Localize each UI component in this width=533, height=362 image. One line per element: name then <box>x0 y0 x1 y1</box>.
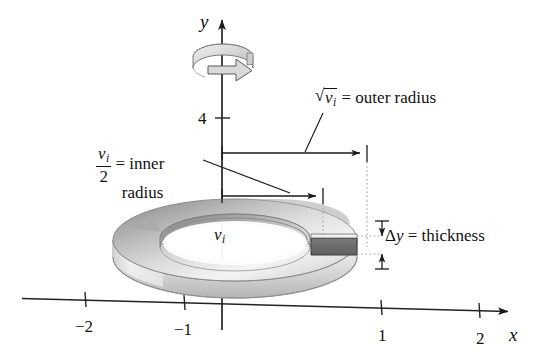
radical-group: √ vi <box>315 88 337 109</box>
outer-radius-dimension <box>222 145 367 162</box>
x-tick-label-2: 2 <box>476 330 485 347</box>
fraction-numerator: vi <box>96 145 111 166</box>
thickness-variable: y <box>396 226 404 245</box>
outer-radius-leader <box>305 113 323 152</box>
x-axis-label: x <box>509 325 517 344</box>
washer-volume-variable: v <box>214 225 222 244</box>
fraction-denominator: 2 <box>96 166 111 185</box>
rotation-arrow-icon <box>193 44 253 81</box>
outer-radius-equals: = <box>342 88 352 107</box>
inner-radius-variable: v <box>98 144 106 163</box>
radical-sign-icon: √ <box>315 87 324 104</box>
y-axis-label: y <box>200 12 208 31</box>
washer-solid <box>113 199 357 298</box>
x-tick-label-minus1: −1 <box>174 321 192 338</box>
x-tick-label-1: 1 <box>378 327 387 344</box>
washer-volume-annotation: vi <box>214 226 225 246</box>
outer-radius-variable: v <box>325 88 333 107</box>
y-tick-label-4: 4 <box>198 110 207 127</box>
figure-canvas <box>0 0 533 362</box>
washer-volume-subscript: i <box>222 233 225 246</box>
inner-radius-text-line1: inner <box>129 155 164 173</box>
radicand: vi <box>324 88 337 109</box>
inner-radius-annotation: vi 2 = inner radius <box>96 144 164 202</box>
thickness-equals: = <box>408 226 418 245</box>
thickness-text: thickness <box>422 226 485 245</box>
thickness-delta-symbol: Δ <box>385 226 396 245</box>
thickness-annotation: Δy = thickness <box>385 227 485 244</box>
x-tick-label-minus2: −2 <box>75 318 93 335</box>
inner-radius-fraction: vi 2 <box>96 145 111 185</box>
outer-radius-annotation: √ vi = outer radius <box>315 88 436 109</box>
washer-method-figure: y x 4 −2 −1 1 2 √ vi = outer radius vi 2… <box>0 0 533 362</box>
inner-radius-text-line2: radius <box>96 184 164 202</box>
outer-radius-text: outer radius <box>355 88 436 107</box>
inner-radius-equals: = <box>116 155 126 173</box>
inner-radius-subscript: i <box>106 152 109 165</box>
outer-radius-subscript: i <box>333 96 336 109</box>
inner-radius-leader <box>203 160 290 193</box>
